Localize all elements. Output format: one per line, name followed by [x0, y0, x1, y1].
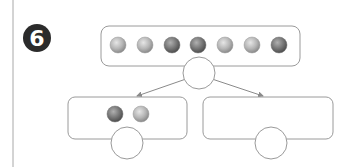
exercise-number-badge: 6	[23, 24, 51, 52]
left-answer-circle[interactable]	[111, 127, 143, 159]
right-answer-circle[interactable]	[255, 127, 287, 159]
number-bond-diagram: 6	[0, 0, 350, 167]
ball	[164, 37, 180, 53]
ball	[217, 37, 233, 53]
ball	[244, 37, 260, 53]
ball	[110, 37, 126, 53]
exercise-number: 6	[29, 26, 44, 51]
whole-answer-circle[interactable]	[183, 57, 215, 89]
ball	[271, 37, 287, 53]
ball	[137, 37, 153, 53]
ball	[190, 37, 206, 53]
arrow-right	[212, 79, 263, 96]
ball	[133, 106, 149, 122]
ball	[107, 106, 123, 122]
arrow-left	[137, 79, 186, 96]
